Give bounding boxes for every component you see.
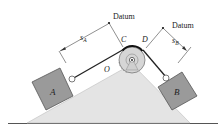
point-d-label: D (141, 35, 148, 44)
sa-extension (59, 51, 66, 63)
datum-right-label: Datum (172, 21, 195, 30)
hook-b (163, 75, 169, 81)
sb-label: sB (172, 36, 179, 46)
cord-b (143, 50, 166, 77)
point-o-label: O (104, 65, 110, 74)
datum-right-line (146, 28, 163, 48)
pulley-center (131, 59, 133, 61)
datum-left-dot (108, 22, 110, 24)
datum-right-dot (162, 27, 164, 29)
hook-a (69, 76, 75, 82)
sa-arrow-left (60, 47, 66, 51)
datum-left-label: Datum (113, 12, 136, 21)
block-b-label: B (174, 87, 180, 97)
block-a-label: A (49, 87, 56, 97)
sa-label-sub: A (82, 37, 87, 43)
sa-label: sA (80, 33, 87, 43)
pulley-wedge-diagram: Datum Datum sA sB C D O A B (0, 0, 224, 135)
point-c-label: C (121, 35, 127, 44)
